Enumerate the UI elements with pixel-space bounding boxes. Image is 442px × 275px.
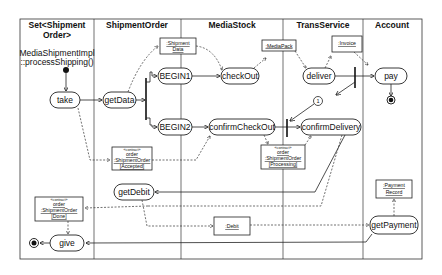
svg-text:give: give	[59, 238, 75, 248]
object-order-accepted[interactable]: «contract» order :ShipmentOrder [Accepte…	[112, 147, 152, 170]
lane-title-shipmentorder: ShipmentOrder	[106, 20, 169, 30]
action-give[interactable]: give	[50, 235, 84, 251]
action-getDebit[interactable]: getDebit	[114, 184, 154, 200]
svg-text:confirmCheckOut: confirmCheckOut	[209, 122, 275, 132]
svg-text:getPayment: getPayment	[371, 220, 417, 230]
lane-title-transservice: TransService	[297, 20, 350, 30]
svg-text:[Processing]: [Processing]	[269, 161, 298, 167]
lane-title-set-2: Order>	[43, 30, 71, 40]
action-begin1[interactable]: BEGIN1	[158, 68, 192, 84]
lane-title-set: Set<Shipment	[29, 20, 86, 30]
svg-text::Payment: :Payment	[383, 182, 405, 188]
svg-text:Data: Data	[173, 46, 184, 52]
svg-text:take: take	[57, 95, 73, 105]
initial-node-icon	[63, 67, 69, 73]
object-invoice[interactable]: :Invoice	[332, 36, 362, 52]
note-line-2: ::processShipping()	[20, 57, 93, 67]
object-media-pack[interactable]: :MediaPack	[262, 40, 296, 51]
action-begin2[interactable]: BEGIN2	[158, 119, 192, 135]
svg-text:getDebit: getDebit	[118, 187, 150, 197]
action-checkOut[interactable]: checkOut	[221, 68, 259, 84]
svg-text:deliver: deliver	[306, 71, 331, 81]
svg-text::Debit: :Debit	[225, 223, 239, 229]
svg-text:Record: Record	[386, 189, 403, 195]
object-order-done[interactable]: «contract» order :ShipmentOrder [Done]	[35, 197, 83, 221]
action-deliver[interactable]: deliver	[303, 68, 335, 84]
svg-text:pay: pay	[384, 71, 398, 81]
svg-text:confirmDelivery: confirmDelivery	[302, 122, 361, 132]
action-getPayment[interactable]: getPayment	[370, 216, 418, 234]
lane-title-mediastock: MediaStock	[208, 20, 256, 30]
final-node-icon	[30, 239, 39, 248]
action-getData[interactable]: getData	[103, 92, 136, 108]
object-debit[interactable]: :Debit	[214, 217, 250, 235]
lane-title-account: Account	[375, 20, 409, 30]
svg-text:BEGIN1: BEGIN1	[159, 71, 190, 81]
action-take[interactable]: take	[50, 92, 80, 108]
action-confirmCheckOut[interactable]: confirmCheckOut	[209, 119, 275, 135]
svg-text:BEGIN2: BEGIN2	[159, 122, 190, 132]
object-order-processing[interactable]: «contract» order :ShipmentOrder [Process…	[261, 145, 305, 169]
svg-text::MediaPack: :MediaPack	[265, 43, 293, 49]
object-shipment-data[interactable]: :Shipment Data	[160, 38, 196, 54]
action-pay[interactable]: pay	[375, 68, 407, 84]
svg-text:[Done]: [Done]	[51, 213, 67, 219]
final-node-icon	[387, 96, 395, 104]
svg-text:getData: getData	[105, 95, 135, 105]
action-confirmDelivery[interactable]: confirmDelivery	[301, 119, 361, 135]
svg-text:checkOut: checkOut	[222, 71, 259, 81]
object-payment-record[interactable]: :Payment Record	[376, 180, 412, 198]
svg-text::Invoice: :Invoice	[338, 40, 356, 46]
svg-text:1: 1	[316, 98, 319, 104]
activity-diagram: Set<Shipment Order> ShipmentOrder MediaS…	[0, 0, 442, 275]
svg-text:[Accepted]: [Accepted]	[120, 163, 145, 169]
connector-1: 1	[314, 97, 323, 106]
